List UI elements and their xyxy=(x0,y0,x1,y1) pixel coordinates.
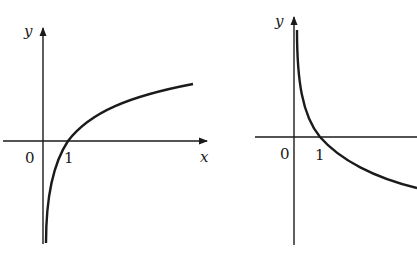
right-tick-1-label: 1 xyxy=(315,146,325,164)
left-tick-1-label: 1 xyxy=(64,149,74,167)
right-y-label: y xyxy=(274,12,284,30)
left-graph: y 0 1 x xyxy=(3,22,209,244)
left-x-label: x xyxy=(200,148,209,166)
left-y-label: y xyxy=(23,22,33,40)
right-origin-label: 0 xyxy=(280,145,290,163)
left-origin-label: 0 xyxy=(25,149,35,167)
diagram-canvas: y 0 1 x y 0 1 xyxy=(0,0,417,270)
right-curve xyxy=(297,30,417,188)
right-graph: y 0 1 xyxy=(255,12,417,245)
